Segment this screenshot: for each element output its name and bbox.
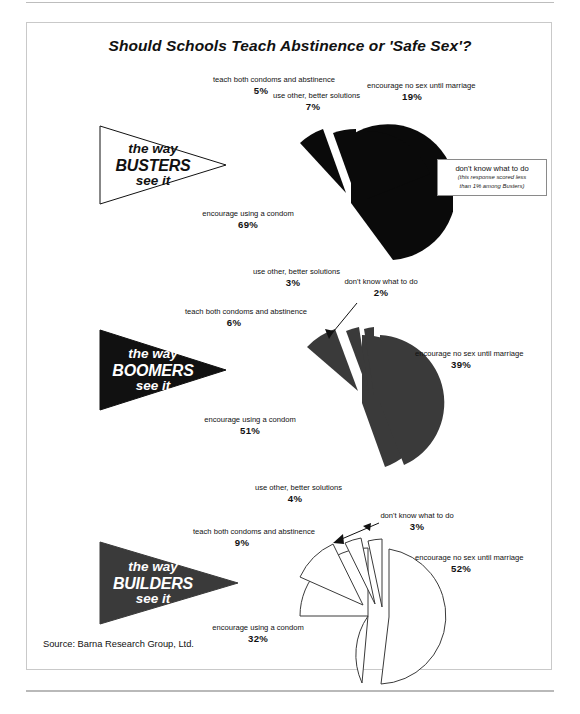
triangle-builders-icon bbox=[99, 541, 239, 625]
label-boomers-nosex-text: encourage no sex until marriage bbox=[415, 349, 524, 358]
note-box-sub-line1: (this response scored less bbox=[445, 174, 539, 181]
leader-line-builders-dontknow bbox=[323, 519, 381, 549]
label-boomers-teach-pct: 6% bbox=[185, 317, 283, 329]
label-boomers-nosex-pct: 39% bbox=[415, 359, 507, 371]
content-frame: Should Schools Teach Abstinence or 'Safe… bbox=[26, 22, 552, 670]
note-box-main: don't know what to do bbox=[445, 164, 539, 173]
label-busters-teach-text: teach both condoms and abstinence bbox=[213, 75, 335, 84]
label-builders-condom: encourage using a condom 32% bbox=[195, 623, 321, 644]
label-boomers-dontknow-pct: 2% bbox=[327, 287, 435, 299]
label-boomers-condom-pct: 51% bbox=[187, 425, 313, 437]
leader-line-boomers-dontknow bbox=[313, 301, 359, 343]
triangle-busters-icon bbox=[99, 125, 227, 205]
pie-chart-busters bbox=[263, 95, 453, 265]
label-boomers-other: use other, better solutions 3% bbox=[253, 267, 333, 288]
label-builders-other-text: use other, better solutions bbox=[255, 483, 342, 492]
label-boomers-condom: encourage using a condom 51% bbox=[187, 415, 313, 436]
label-boomers-other-pct: 3% bbox=[253, 277, 333, 289]
label-builders-condom-pct: 32% bbox=[195, 633, 321, 645]
label-boomers-dontknow: don't know what to do 2% bbox=[327, 277, 435, 298]
label-busters-nosex-text: encourage no sex until marriage bbox=[367, 81, 476, 90]
note-box-sub-line2: than 1% among Busters) bbox=[445, 183, 539, 190]
pennant-builders: the way BUILDERS see it bbox=[99, 541, 239, 625]
label-busters-other: use other, better solutions 7% bbox=[273, 91, 353, 112]
label-busters-nosex: encourage no sex until marriage 19% bbox=[367, 81, 457, 102]
infographic-page: Should Schools Teach Abstinence or 'Safe… bbox=[0, 0, 580, 714]
source-note: Source: Barna Research Group, Ltd. bbox=[43, 639, 194, 649]
label-builders-nosex-pct: 52% bbox=[415, 563, 507, 575]
label-busters-other-text: use other, better solutions bbox=[273, 91, 360, 100]
label-boomers-condom-text: encourage using a condom bbox=[204, 415, 296, 424]
top-divider bbox=[26, 2, 554, 3]
label-boomers-dontknow-text: don't know what to do bbox=[344, 277, 417, 286]
label-busters-condom: encourage using a condom 69% bbox=[185, 209, 311, 230]
bottom-divider bbox=[26, 690, 554, 692]
label-builders-teach: teach both condoms and abstinence 9% bbox=[193, 527, 291, 548]
label-builders-other-pct: 4% bbox=[255, 493, 335, 505]
pennant-boomers: the way BOOMERS see it bbox=[99, 329, 227, 411]
pennant-busters: the way BUSTERS see it bbox=[99, 125, 227, 205]
page-title: Should Schools Teach Abstinence or 'Safe… bbox=[27, 37, 553, 55]
label-builders-teach-text: teach both condoms and abstinence bbox=[193, 527, 315, 536]
label-busters-other-pct: 7% bbox=[273, 101, 353, 113]
label-busters-nosex-pct: 19% bbox=[367, 91, 457, 103]
label-builders-nosex-text: encourage no sex until marriage bbox=[415, 553, 524, 562]
label-builders-teach-pct: 9% bbox=[193, 537, 291, 549]
label-boomers-teach-text: teach both condoms and abstinence bbox=[185, 307, 307, 316]
note-box-busters: don't know what to do (this response sco… bbox=[437, 159, 547, 196]
label-busters-condom-pct: 69% bbox=[185, 219, 311, 231]
triangle-boomers-icon bbox=[99, 329, 227, 411]
label-builders-other: use other, better solutions 4% bbox=[255, 483, 335, 504]
label-builders-nosex: encourage no sex until marriage 52% bbox=[415, 553, 507, 574]
label-boomers-teach: teach both condoms and abstinence 6% bbox=[185, 307, 283, 328]
label-builders-condom-text: encourage using a condom bbox=[212, 623, 304, 632]
label-builders-dontknow-text: don't know what to do bbox=[380, 511, 453, 520]
label-boomers-nosex: encourage no sex until marriage 39% bbox=[415, 349, 507, 370]
pie-chart-boomers bbox=[277, 291, 467, 471]
label-boomers-other-text: use other, better solutions bbox=[253, 267, 340, 276]
label-busters-condom-text: encourage using a condom bbox=[202, 209, 294, 218]
